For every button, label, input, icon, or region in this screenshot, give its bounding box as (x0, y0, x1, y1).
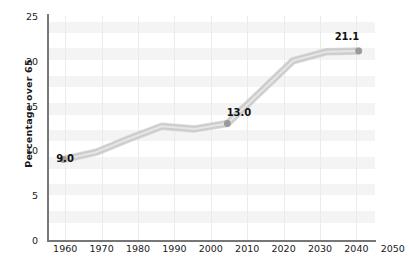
y-tick-label: 25 (4, 11, 38, 22)
series-marker (355, 48, 362, 55)
x-tick-label: 2010 (227, 243, 267, 254)
x-tick-label: 2040 (336, 243, 376, 254)
x-tick-label: 1960 (45, 243, 85, 254)
x-axis-line (47, 240, 376, 242)
x-tick-label: 2030 (300, 243, 340, 254)
x-tick-label: 1980 (118, 243, 158, 254)
series-marker (224, 120, 231, 127)
x-tick-label: 1990 (154, 243, 194, 254)
series-line (63, 51, 358, 159)
y-tick-label: 5 (4, 190, 38, 201)
series-line-shadow (63, 51, 358, 159)
data-series-svg (47, 16, 375, 240)
y-axis-line (47, 14, 49, 242)
x-tick-label: 1970 (82, 243, 122, 254)
x-tick-label: 2050 (373, 243, 409, 254)
y-tick-label: 15 (4, 100, 38, 111)
y-tick-label: 20 (4, 55, 38, 66)
y-tick-label: 10 (4, 145, 38, 156)
plot-area: 9.0 13.0 21.1 (47, 16, 375, 240)
data-label: 21.1 (335, 31, 360, 42)
x-axis-tick-labels: 1960 1970 1980 1990 2000 2010 2020 2030 … (0, 243, 388, 263)
y-axis-tick-labels: 25 20 15 10 5 0 (0, 0, 44, 263)
x-tick-label: 2000 (191, 243, 231, 254)
x-tick-label: 2020 (264, 243, 304, 254)
data-label: 9.0 (56, 153, 74, 164)
data-label: 13.0 (227, 107, 252, 118)
series-line-highlight (63, 51, 358, 159)
